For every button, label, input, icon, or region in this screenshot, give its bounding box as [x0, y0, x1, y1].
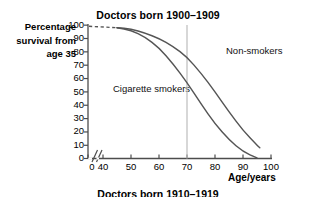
axis-break-marker — [88, 150, 102, 162]
curve-non-smokers-final — [117, 28, 260, 148]
next-chart-title-partial: Doctors born 1910–1919 — [0, 188, 316, 197]
chart-figure: Doctors born 1900–1909 Percentage surviv… — [0, 0, 316, 197]
plot-area — [0, 0, 316, 197]
shared-dashed-segment — [89, 26, 117, 27]
